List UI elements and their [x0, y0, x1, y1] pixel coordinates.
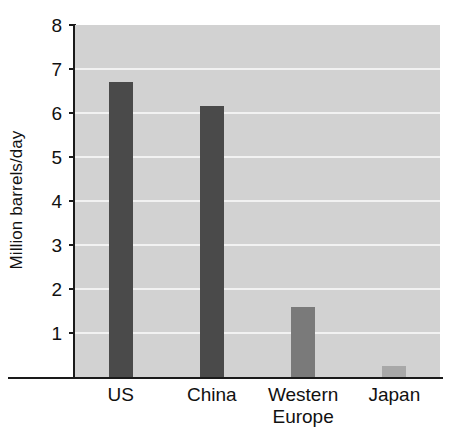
y-axis-tick-label: 3 [51, 236, 62, 255]
y-axis-tick-label: 8 [51, 16, 62, 35]
x-axis-tick-label: Japan [368, 384, 420, 406]
plot-area [75, 25, 440, 377]
x-axis-spine [8, 377, 443, 379]
y-axis-title: Million barrels/day [0, 0, 34, 400]
bar [200, 106, 224, 377]
bar [291, 307, 315, 377]
y-axis-tick-label: 4 [51, 192, 62, 211]
y-axis-tick-label: 2 [51, 280, 62, 299]
bar [109, 82, 133, 377]
y-axis-tick-label: 6 [51, 104, 62, 123]
x-axis-tick-label: Western Europe [268, 384, 338, 428]
y-axis-tick-label: 1 [51, 324, 62, 343]
bar [382, 366, 406, 377]
y-axis-tick-label: 5 [51, 148, 62, 167]
x-axis-tick-labels: USChinaWestern EuropeJapan [75, 384, 440, 444]
x-axis-tick-label: US [107, 384, 133, 406]
y-axis-title-text: Million barrels/day [7, 131, 27, 270]
bar-chart-figure: Million barrels/day 12345678 USChinaWest… [0, 0, 449, 444]
y-axis-tick-label: 7 [51, 60, 62, 79]
gridline [75, 68, 440, 70]
x-axis-tick-label: China [187, 384, 237, 406]
